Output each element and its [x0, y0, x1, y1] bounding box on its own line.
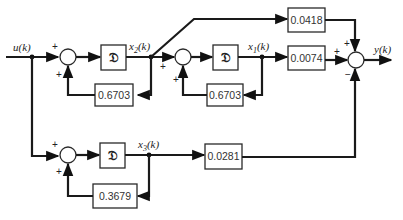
input-label: u(k)	[13, 41, 31, 54]
feedback-gain-block-3: 0.3679	[93, 184, 137, 208]
sum1-sign-top: +	[52, 41, 58, 52]
input-signal: u(k)	[6, 41, 58, 57]
svg-text:0.0074: 0.0074	[290, 52, 322, 64]
sum2-sign-left: +	[160, 61, 166, 72]
feedback-gain-block-2: 0.6703	[207, 84, 243, 106]
x3-label: x3(k)	[137, 138, 159, 153]
delay-block-1: 𝔇	[101, 45, 126, 70]
svg-text:0.3679: 0.3679	[99, 190, 131, 202]
sum3-sign-bottom: −	[345, 69, 351, 80]
sum-junction-1: + +	[52, 41, 76, 80]
gain-block-0.0074: 0.0074	[288, 46, 325, 70]
svg-text:𝔇: 𝔇	[221, 50, 231, 65]
svg-text:𝔇: 𝔇	[109, 50, 119, 65]
gain-block-0.0418: 0.0418	[288, 8, 325, 32]
gain-block-0.0281: 0.0281	[205, 144, 242, 169]
delay-block-3: 𝔇	[100, 143, 125, 168]
block-diagram: u(k) + + 𝔇 x2(k) 0.6703 0.0418 + + 𝔇	[0, 0, 403, 220]
sum4-sign-top: +	[52, 139, 58, 150]
sum1-sign-bottom: +	[56, 69, 62, 80]
svg-text:𝔇: 𝔇	[108, 148, 118, 163]
output-label: y(k)	[373, 43, 391, 56]
x1-label: x1(k)	[247, 40, 269, 55]
svg-text:0.6703: 0.6703	[98, 89, 130, 101]
sum2-sign-bottom: +	[173, 74, 179, 85]
svg-text:0.0281: 0.0281	[207, 150, 239, 162]
feedback-gain-block-1: 0.6703	[95, 84, 133, 106]
sum-junction-2: + +	[160, 49, 191, 85]
delay-block-2: 𝔇	[213, 45, 238, 70]
sum4-sign-bottom: +	[56, 166, 62, 177]
sum-junction-3: + +	[52, 139, 76, 177]
svg-text:0.6703: 0.6703	[209, 89, 241, 101]
x2-label: x2(k)	[128, 40, 150, 55]
sum3-sign-left: +	[334, 46, 340, 57]
sum3-sign-top: +	[344, 38, 350, 49]
svg-text:0.0418: 0.0418	[290, 14, 322, 26]
